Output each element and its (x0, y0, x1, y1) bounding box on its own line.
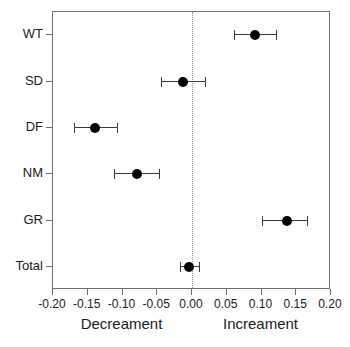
ci-cap-upper (276, 30, 277, 40)
y-axis-tick (46, 266, 52, 267)
forest-plot-figure: WTSDDFNMGRTotal -0.20-0.15-0.10-0.050.00… (0, 0, 350, 347)
y-axis-tick-label: Total (16, 259, 43, 272)
ci-cap-upper (307, 216, 308, 226)
y-axis-tick (46, 34, 52, 35)
y-axis-tick (46, 127, 52, 128)
x-axis-tick-label: 0.00 (179, 298, 202, 310)
decrement-direction-label: Decreament (81, 316, 163, 331)
x-axis-tick-label: 0.15 (284, 298, 307, 310)
y-axis-tick-label: WT (23, 27, 43, 40)
ci-cap-upper (159, 169, 160, 179)
ci-cap-lower (74, 123, 75, 133)
ci-cap-upper (117, 123, 118, 133)
y-axis-tick-label: GR (24, 213, 44, 226)
x-axis-tick-label: 0.20 (318, 298, 341, 310)
x-axis-tick-label: -0.10 (108, 298, 135, 310)
ci-cap-lower (114, 169, 115, 179)
x-axis-tick (191, 289, 192, 295)
x-axis-tick (122, 289, 123, 295)
x-axis-tick-label: -0.20 (38, 298, 65, 310)
y-axis-tick (46, 220, 52, 221)
x-axis-tick (52, 289, 53, 295)
ci-cap-lower (234, 30, 235, 40)
ci-cap-lower (180, 262, 181, 272)
point-marker (282, 216, 292, 226)
plot-frame (52, 11, 330, 289)
y-axis-tick-label: DF (26, 120, 43, 133)
x-axis-tick-label: -0.05 (143, 298, 170, 310)
x-axis-tick-label: -0.15 (73, 298, 100, 310)
zero-reference-line (192, 12, 193, 288)
point-marker (132, 169, 142, 179)
x-axis-tick (156, 289, 157, 295)
increment-direction-label: Increament (223, 316, 298, 331)
x-axis-tick (87, 289, 88, 295)
point-marker (90, 123, 100, 133)
x-axis-tick-label: 0.05 (214, 298, 237, 310)
x-axis-tick-label: 0.10 (249, 298, 272, 310)
y-axis-tick-label: NM (23, 166, 43, 179)
x-axis-tick (226, 289, 227, 295)
x-axis-tick (295, 289, 296, 295)
x-axis-tick (330, 289, 331, 295)
ci-cap-lower (262, 216, 263, 226)
point-marker (178, 77, 188, 87)
x-axis-tick (261, 289, 262, 295)
y-axis-tick (46, 173, 52, 174)
point-marker (250, 30, 260, 40)
point-marker (184, 262, 194, 272)
ci-cap-upper (199, 262, 200, 272)
ci-cap-lower (161, 77, 162, 87)
ci-cap-upper (205, 77, 206, 87)
y-axis-tick (46, 81, 52, 82)
y-axis-tick-label: SD (25, 74, 43, 87)
